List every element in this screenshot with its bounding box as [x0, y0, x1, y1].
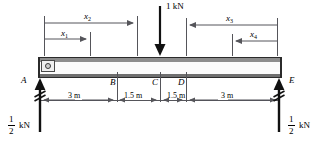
applied-load-label: 1 kN: [166, 2, 184, 11]
reaction-E-denominator: 2: [288, 127, 295, 136]
dimension-label-x4: x4: [250, 30, 257, 39]
x4-subscript: 4: [254, 34, 257, 40]
point-label-B: B: [110, 78, 116, 87]
reaction-A-denominator: 2: [8, 127, 15, 136]
x2-subscript: 2: [88, 16, 91, 22]
reaction-E-numerator: 1: [288, 115, 295, 124]
arrow-overlay: [0, 0, 320, 143]
span-label-A-B: 3 m: [68, 92, 80, 100]
x1-subscript: 1: [65, 33, 68, 39]
reaction-E-unit: kN: [299, 120, 310, 130]
span-label-C-D: 1.5 m: [167, 92, 185, 100]
point-label-E: E: [289, 76, 295, 85]
point-label-A: A: [21, 76, 27, 85]
span-label-B-C: 1.5 m: [124, 92, 142, 100]
reaction-E-fraction: 1 2: [288, 115, 295, 136]
x3-subscript: 3: [230, 18, 233, 24]
point-label-C: C: [152, 78, 158, 87]
dimension-label-x3: x3: [226, 14, 233, 23]
span-label-D-E: 3 m: [221, 92, 233, 100]
point-label-D: D: [178, 78, 185, 87]
reaction-A-fraction: 1 2: [8, 115, 15, 136]
dimension-label-x1: x1: [61, 29, 68, 38]
reaction-A-unit: kN: [19, 120, 30, 130]
dimension-label-x2: x2: [84, 12, 91, 21]
beam-diagram-figure: 1 kN x1 x2 x3 x4 A B C D E 3 m 1.5 m 1.5…: [0, 0, 320, 143]
reaction-A-numerator: 1: [8, 115, 15, 124]
